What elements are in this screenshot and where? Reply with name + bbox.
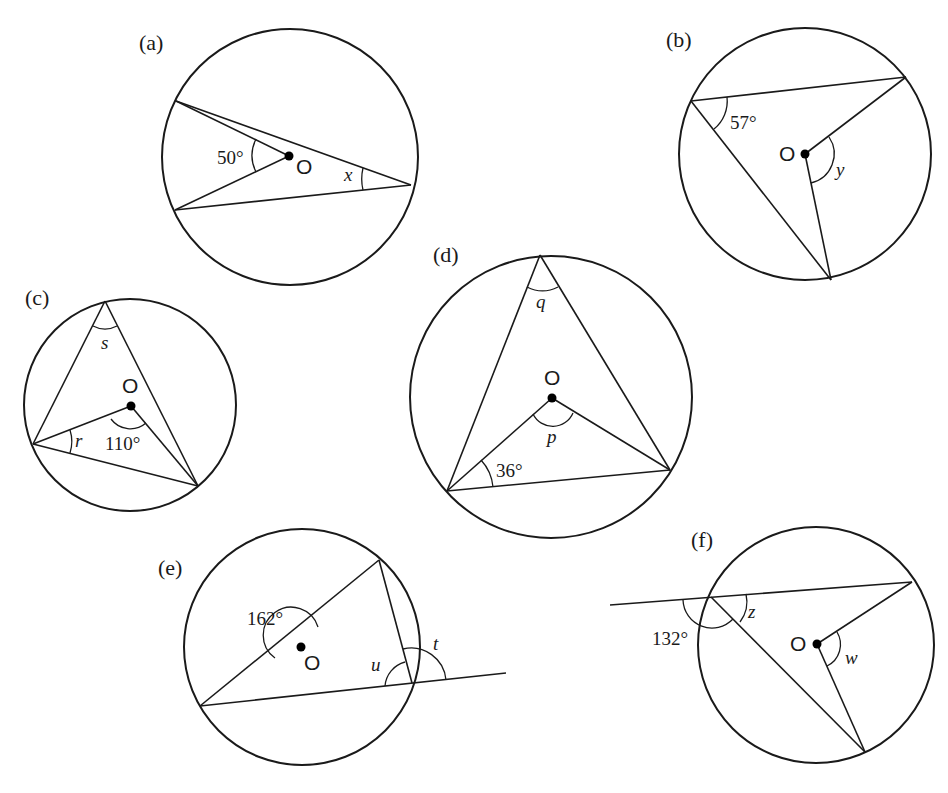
chord-d-left: [447, 255, 540, 491]
center-label-b: O: [779, 142, 795, 165]
diagram-f: (f) 132° z O w: [610, 527, 934, 763]
unknown-y: y: [834, 159, 845, 180]
extended-chord-f: [610, 582, 912, 605]
angle-label-162: 162°: [247, 608, 283, 629]
center-label-f: O: [790, 632, 806, 655]
chord-d-right: [540, 255, 670, 470]
circle-theorems-figure: (a) 50° O x (b) 57° O y (c): [0, 0, 948, 793]
angle-arc-f-z: [740, 594, 747, 622]
angle-arc-c-110: [111, 419, 146, 429]
angle-label-57: 57°: [730, 112, 757, 133]
unknown-x: x: [343, 164, 353, 185]
diameter-line-e: [200, 560, 379, 706]
center-point-d: [548, 394, 557, 403]
angle-label-36: 36°: [496, 460, 523, 481]
angle-arc-f-132: [683, 600, 733, 628]
unknown-w: w: [845, 647, 858, 668]
center-label-d: O: [544, 366, 560, 389]
diagram-d: (d) q O p 36°: [410, 242, 692, 538]
angle-arc-b-57: [714, 97, 727, 129]
unknown-t: t: [433, 633, 439, 654]
chord-d-bottom: [447, 470, 670, 491]
chord-c-left: [33, 301, 105, 444]
angle-arc-b-y: [811, 137, 834, 183]
extended-chord-e: [200, 673, 506, 706]
center-point-c: [127, 402, 136, 411]
center-point-b: [801, 150, 810, 159]
angle-label-110: 110°: [105, 433, 140, 454]
center-label-a: O: [296, 155, 312, 178]
diagram-a-label: (a): [139, 30, 163, 55]
diagram-c-label: (c): [25, 285, 49, 310]
unknown-s: s: [101, 332, 108, 353]
diagram-f-label: (f): [691, 527, 713, 552]
radius-d-2: [552, 398, 670, 470]
angle-arc-d-36: [481, 460, 493, 487]
chord-a-1: [176, 101, 411, 185]
diagram-e: (e) 162° O u t: [158, 529, 506, 765]
unknown-r: r: [75, 430, 83, 451]
angle-arc-c-s: [93, 326, 117, 329]
radius-f-1: [817, 582, 912, 644]
diagram-d-label: (d): [433, 242, 459, 267]
radius-f-2: [817, 644, 865, 752]
angle-label-132: 132°: [652, 628, 688, 649]
diagram-c: (c) s O r 110°: [24, 285, 236, 511]
angle-arc-c-r: [70, 430, 72, 453]
center-label-e: O: [304, 651, 320, 674]
angle-arc-d-p: [533, 413, 573, 426]
angle-label-50: 50°: [217, 147, 244, 168]
angle-arc-a-50: [252, 139, 256, 172]
unknown-q: q: [536, 291, 546, 312]
diagram-e-label: (e): [158, 555, 182, 580]
unknown-p: p: [545, 426, 557, 447]
chord-b-left: [691, 101, 831, 280]
radius-b-1: [805, 77, 906, 154]
diagram-b-label: (b): [666, 27, 692, 52]
diagram-a: (a) 50° O x: [139, 29, 418, 285]
center-label-c: O: [122, 374, 138, 397]
center-point-a: [285, 152, 294, 161]
chord-c-right: [105, 301, 198, 486]
chord-e-right: [379, 560, 412, 683]
diagram-b: (b) 57° O y: [666, 27, 931, 280]
chord-b-top: [691, 77, 906, 101]
center-point-f: [813, 640, 822, 649]
angle-arc-e-u: [385, 662, 405, 686]
chord-a-2: [175, 185, 411, 210]
angle-arc-a-x: [362, 168, 363, 190]
unknown-z: z: [747, 601, 756, 622]
unknown-u: u: [371, 654, 381, 675]
